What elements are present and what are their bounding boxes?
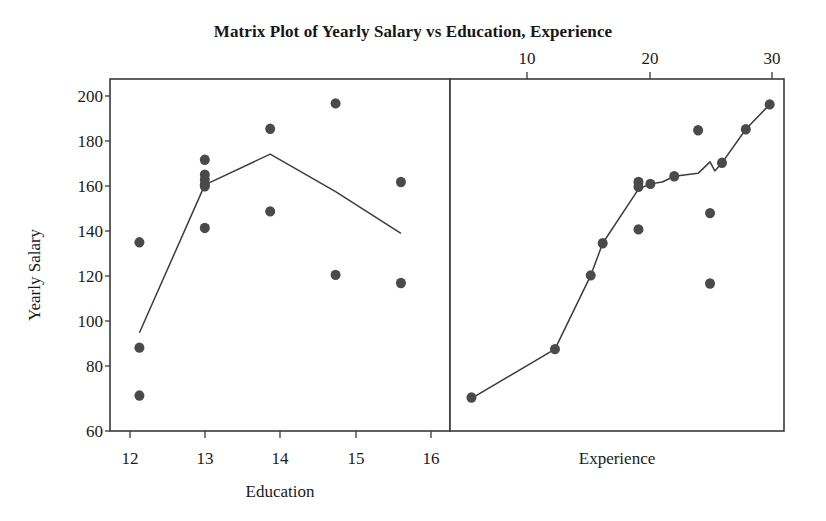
y-tick-label: 140 [78, 222, 104, 241]
experience-axis-title: Experience [579, 449, 655, 468]
y-axis-title: Yearly Salary [25, 228, 44, 321]
education-x-ticks [130, 431, 431, 438]
scatter-point [331, 270, 341, 280]
scatter-point [396, 278, 406, 288]
scatter-point [669, 171, 679, 181]
y-tick-label: 200 [78, 87, 104, 106]
x-tick-label: 15 [348, 449, 365, 468]
experience-x-ticks [527, 72, 772, 79]
scatter-point [265, 206, 275, 216]
y-tick-label: 160 [78, 177, 104, 196]
scatter-point [200, 223, 210, 233]
scatter-point [741, 124, 751, 134]
scatter-point [200, 181, 210, 191]
scatter-point [765, 99, 775, 109]
education-x-tick-labels: 12 13 14 15 16 [122, 449, 440, 468]
x-tick-label: 13 [197, 449, 214, 468]
y-tick-label: 80 [86, 357, 103, 376]
scatter-point [134, 390, 144, 400]
x-tick-label: 20 [642, 49, 659, 68]
scatter-point [396, 177, 406, 187]
experience-panel: 10 20 30 Experience [450, 49, 784, 468]
x-tick-label: 30 [764, 49, 781, 68]
scatter-point [466, 392, 476, 402]
x-tick-label: 14 [272, 449, 290, 468]
scatter-point [134, 237, 144, 247]
scatter-point [705, 278, 715, 288]
scatter-point [705, 208, 715, 218]
x-tick-label: 16 [423, 449, 440, 468]
scatter-point [265, 124, 275, 134]
matrix-plot-canvas: Yearly Salary 200 180 160 140 120 100 80… [0, 0, 826, 521]
education-panel: 12 13 14 15 16 Education [110, 79, 450, 501]
education-axis-title: Education [246, 482, 315, 501]
scatter-point [550, 344, 560, 354]
y-axis-tick-labels: 200 180 160 140 120 100 80 60 [78, 87, 104, 441]
scatter-point [586, 270, 596, 280]
y-tick-label: 180 [78, 132, 104, 151]
x-tick-label: 12 [122, 449, 139, 468]
scatter-point [645, 179, 655, 189]
scatter-point [331, 98, 341, 108]
experience-x-tick-labels: 10 20 30 [519, 49, 781, 68]
scatter-point [693, 125, 703, 135]
x-tick-label: 10 [519, 49, 536, 68]
scatter-point [633, 224, 643, 234]
y-tick-label: 60 [86, 422, 103, 441]
y-tick-label: 100 [78, 312, 104, 331]
matrix-plot-figure: Matrix Plot of Yearly Salary vs Educatio… [0, 0, 826, 521]
scatter-point [633, 182, 643, 192]
scatter-point [134, 342, 144, 352]
education-panel-frame [110, 79, 450, 431]
scatter-point [598, 238, 608, 248]
scatter-point [717, 158, 727, 168]
y-tick-label: 120 [78, 267, 104, 286]
scatter-point [200, 155, 210, 165]
experience-panel-frame [450, 79, 784, 431]
